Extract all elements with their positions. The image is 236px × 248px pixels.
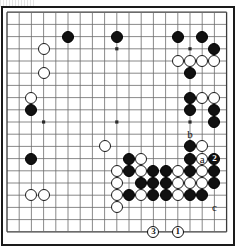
white-stone — [172, 165, 184, 177]
white-stone — [38, 189, 50, 201]
black-stone — [184, 153, 196, 165]
white-stone — [172, 177, 184, 189]
point-label-c: c — [208, 201, 220, 213]
black-stone — [25, 153, 37, 165]
numbered-move-stone-2: 2 — [208, 153, 220, 165]
black-stone — [160, 189, 172, 201]
black-stone — [196, 31, 208, 43]
white-stone — [135, 165, 147, 177]
black-stone — [184, 92, 196, 104]
black-stone — [62, 31, 74, 43]
star-point — [188, 47, 191, 50]
go-diagram-root: 123abc — [0, 0, 236, 248]
white-stone — [184, 55, 196, 67]
black-stone — [184, 165, 196, 177]
white-stone — [196, 92, 208, 104]
black-stone — [172, 31, 184, 43]
black-stone — [111, 31, 123, 43]
star-point — [115, 47, 118, 50]
white-stone — [99, 140, 111, 152]
star-point — [42, 120, 45, 123]
white-stone — [111, 189, 123, 201]
numbered-move-stone-1: 1 — [172, 226, 184, 238]
white-stone — [25, 92, 37, 104]
white-stone — [111, 177, 123, 189]
white-stone — [196, 165, 208, 177]
white-stone — [184, 177, 196, 189]
black-stone — [123, 165, 135, 177]
white-stone — [38, 67, 50, 79]
white-stone — [38, 43, 50, 55]
white-stone — [208, 92, 220, 104]
star-point — [115, 120, 118, 123]
point-label-a: a — [196, 153, 208, 165]
white-stone — [135, 153, 147, 165]
black-stone — [160, 177, 172, 189]
black-stone — [123, 153, 135, 165]
point-label-b: b — [184, 128, 196, 140]
white-stone — [172, 189, 184, 201]
white-stone — [111, 165, 123, 177]
black-stone — [160, 165, 172, 177]
black-stone — [184, 104, 196, 116]
star-point — [188, 120, 191, 123]
white-stone — [172, 55, 184, 67]
